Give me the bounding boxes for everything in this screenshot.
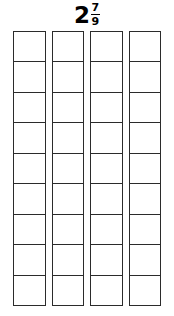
fraction-bar-cell[interactable] bbox=[91, 93, 122, 123]
fraction-bar-cell[interactable] bbox=[91, 123, 122, 153]
fraction-bar-cell[interactable] bbox=[130, 32, 161, 62]
fraction-bar[interactable] bbox=[52, 31, 85, 306]
fraction-bar-cell[interactable] bbox=[91, 184, 122, 214]
fraction-bar-cell[interactable] bbox=[14, 62, 45, 92]
page-title: 2 7 9 bbox=[0, 1, 174, 29]
fraction-bar-cell[interactable] bbox=[53, 245, 84, 275]
fraction-bar-cell[interactable] bbox=[14, 123, 45, 153]
fraction-bar[interactable] bbox=[129, 31, 162, 306]
fraction-bar-cell[interactable] bbox=[53, 154, 84, 184]
fraction-bar-cell[interactable] bbox=[130, 184, 161, 214]
fraction: 7 9 bbox=[90, 2, 100, 26]
fraction-bar-cell[interactable] bbox=[91, 215, 122, 245]
fraction-bar-cell[interactable] bbox=[91, 62, 122, 92]
fraction-bar-cell[interactable] bbox=[130, 154, 161, 184]
fraction-bar-cell[interactable] bbox=[130, 276, 161, 305]
fraction-bar-cell[interactable] bbox=[53, 123, 84, 153]
fraction-bar-cell[interactable] bbox=[91, 245, 122, 275]
fraction-bar-cell[interactable] bbox=[14, 32, 45, 62]
fraction-bar-cell[interactable] bbox=[14, 184, 45, 214]
fraction-bar-worksheet: 2 7 9 bbox=[0, 0, 174, 316]
fraction-bar-cell[interactable] bbox=[130, 62, 161, 92]
fraction-bar-cell[interactable] bbox=[14, 93, 45, 123]
fraction-bar-cell[interactable] bbox=[14, 215, 45, 245]
fraction-bar-cell[interactable] bbox=[91, 32, 122, 62]
fraction-bar-cell[interactable] bbox=[130, 215, 161, 245]
fraction-bar-cell[interactable] bbox=[53, 93, 84, 123]
fraction-bar-cell[interactable] bbox=[53, 32, 84, 62]
fraction-bar-cell[interactable] bbox=[53, 215, 84, 245]
fraction-bar-cell[interactable] bbox=[53, 276, 84, 305]
fraction-bar-cell[interactable] bbox=[130, 123, 161, 153]
fraction-bar-cell[interactable] bbox=[14, 154, 45, 184]
whole-number: 2 bbox=[74, 4, 90, 27]
fraction-bar[interactable] bbox=[13, 31, 46, 306]
fraction-bar-cell[interactable] bbox=[91, 154, 122, 184]
fraction-bar-cell[interactable] bbox=[14, 245, 45, 275]
fraction-bar-model bbox=[13, 31, 161, 306]
fraction-bar[interactable] bbox=[90, 31, 123, 306]
fraction-denominator: 9 bbox=[90, 16, 100, 27]
fraction-bar-cell[interactable] bbox=[53, 62, 84, 92]
fraction-bar-cell[interactable] bbox=[53, 184, 84, 214]
fraction-bar-cell[interactable] bbox=[91, 276, 122, 305]
fraction-bar-cell[interactable] bbox=[130, 245, 161, 275]
fraction-bar-cell[interactable] bbox=[130, 93, 161, 123]
fraction-bar-cell[interactable] bbox=[14, 276, 45, 305]
fraction-numerator: 7 bbox=[90, 2, 100, 13]
